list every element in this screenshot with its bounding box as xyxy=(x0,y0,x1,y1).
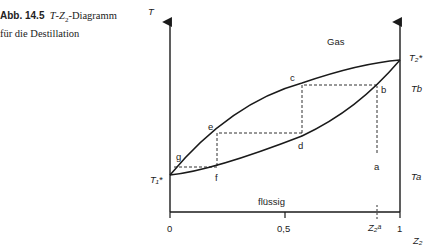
point-b: b xyxy=(381,84,386,95)
x-tick-1: 1 xyxy=(397,223,402,234)
construction-lines xyxy=(172,85,377,167)
t2-star-label: T₂* xyxy=(409,52,422,63)
x-marker-z2a: Z₂ᵃ xyxy=(367,222,381,233)
point-d: d xyxy=(298,140,303,151)
x-tick-0: 0 xyxy=(167,223,172,234)
ta-label: Ta xyxy=(411,171,421,182)
point-g: g xyxy=(176,151,181,162)
dew-curve xyxy=(170,60,400,175)
bubble-curve xyxy=(170,60,400,175)
point-f: f xyxy=(215,172,218,183)
t-z2-diagram: T Z₂ 0 0,5 1 Z₂ᵃ T₁* T₂* Tb Ta Gas flüss… xyxy=(0,0,432,246)
x-axis-label: Z₂ xyxy=(412,235,423,246)
region-gas: Gas xyxy=(327,36,345,47)
tb-label: Tb xyxy=(411,83,422,94)
point-a: a xyxy=(374,161,380,172)
point-e: e xyxy=(208,121,213,132)
t1-star-label: T₁* xyxy=(150,174,163,185)
x-tick-05: 0,5 xyxy=(277,223,290,234)
y-axis-label: T xyxy=(148,6,155,17)
point-c: c xyxy=(290,72,295,83)
region-liquid: flüssig xyxy=(258,196,285,207)
